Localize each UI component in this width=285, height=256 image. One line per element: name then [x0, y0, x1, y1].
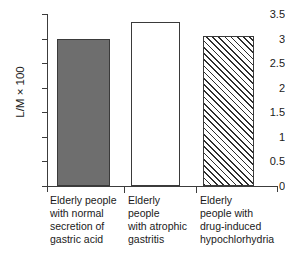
x-category-label-1-line-1: Elderly people — [50, 194, 124, 207]
x-axis-end-tick-right — [277, 186, 278, 192]
y-tick-mark — [42, 137, 47, 138]
y-tick-mark — [42, 14, 47, 15]
y-tick-mark — [42, 39, 47, 40]
y-axis-title-wrap: L/M × 100 — [12, 46, 28, 138]
x-axis-category-separator — [196, 187, 197, 193]
x-category-label-3-line-4: hypochlorhydria — [200, 233, 285, 246]
y-tick-mark — [42, 63, 47, 64]
bar-elderly-drug-induced-hypochlorhydria — [203, 36, 254, 186]
y-axis-line — [47, 14, 48, 186]
x-axis-end-tick-left — [47, 186, 48, 192]
x-category-label-1-line-4: gastric acid — [50, 233, 124, 246]
x-category-label-3-line-2: people with — [200, 207, 285, 220]
y-tick-mark — [42, 88, 47, 89]
bar-elderly-atrophic-gastritis — [131, 22, 180, 186]
y-tick-label: 3.5 — [245, 9, 285, 20]
y-tick-mark — [42, 161, 47, 162]
x-category-label-2-line-1: Elderly — [128, 194, 196, 207]
x-category-label-1-line-2: with normal — [50, 207, 124, 220]
x-category-label-2-line-2: people — [128, 207, 196, 220]
bar-chart: L/M × 100 3.5 3 2.5 2 1.5 1 0.5 0 Elderl… — [0, 0, 285, 256]
x-axis-line — [47, 186, 277, 187]
x-category-label-3-line-1: Elderly — [200, 194, 285, 207]
x-category-label-2-line-4: gastritis — [128, 233, 196, 246]
x-category-label-3-line-3: drug-induced — [200, 220, 285, 233]
bar-elderly-normal-secretion — [57, 39, 110, 186]
x-axis-category-separator — [124, 187, 125, 193]
y-axis-title: L/M × 100 — [14, 66, 26, 117]
x-category-label-2: Elderly people with atrophic gastritis — [128, 194, 196, 246]
x-category-label-1: Elderly people with normal secretion of … — [50, 194, 124, 246]
x-category-label-3: Elderly people with drug-induced hypochl… — [200, 194, 285, 246]
y-tick-mark — [42, 112, 47, 113]
x-category-label-1-line-3: secretion of — [50, 220, 124, 233]
x-category-label-2-line-3: with atrophic — [128, 220, 196, 233]
